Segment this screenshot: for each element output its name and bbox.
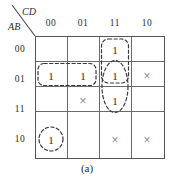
cell-r01-c10: × [131,70,163,82]
row-header-11: 11 [9,105,31,115]
grid-line-horizontal-1 [36,61,164,62]
cell-r01-c01: 1 [67,71,99,82]
cell-r01-c00: 1 [35,71,67,82]
column-header-10: 10 [131,19,163,29]
cell-r10-c11: × [99,134,131,146]
cell-r01-c11: 1 [99,71,131,82]
karnaugh-map-figure: CD AB 00 01 11 10 00 01 11 10 1 1 1 1 × … [0,0,174,185]
cell-r00-c11: 1 [99,45,131,56]
row-variable-label: AB [8,22,21,32]
column-header-01: 01 [67,19,99,29]
cell-r11-c11: 1 [99,96,131,107]
column-variable-label: CD [22,7,36,17]
grid-line-horizontal-3 [36,111,164,112]
row-header-10: 10 [9,135,31,145]
figure-caption: (a) [0,163,174,174]
row-header-01: 01 [9,75,31,85]
cell-r11-c01: × [67,95,99,107]
row-header-00: 00 [9,45,31,55]
cell-r10-c10: × [131,134,163,146]
column-header-11: 11 [99,19,131,29]
column-header-00: 00 [35,19,67,29]
cell-r10-c00: 1 [35,135,67,146]
grid-line-horizontal-2 [36,86,164,87]
